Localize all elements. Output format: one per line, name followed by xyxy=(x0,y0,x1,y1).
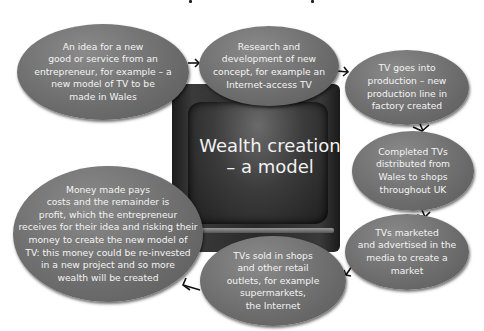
arrow-3-to-4 xyxy=(420,124,423,131)
step-7-profit: Money made pays costs and the remainder … xyxy=(13,166,203,302)
step-2-research: Research and development of new concept,… xyxy=(199,26,339,106)
step-4-text: Completed TVs distributed from Wales to … xyxy=(376,146,450,196)
step-4-distribution: Completed TVs distributed from Wales to … xyxy=(352,131,474,211)
step-6-sales: TVs sold in shops and other retail outle… xyxy=(200,236,346,326)
step-3-production: TV goes into production – new production… xyxy=(345,50,469,125)
step-3-text: TV goes into production – new production… xyxy=(367,62,447,112)
step-5-marketing: TVs marketed and advertised in the media… xyxy=(345,214,469,290)
step-2-text: Research and development of new concept,… xyxy=(213,41,325,91)
arrow-6-to-7 xyxy=(183,285,200,290)
arrow-2-to-3 xyxy=(337,71,348,72)
step-7-text: Money made pays costs and the remainder … xyxy=(19,184,198,285)
step-5-text: TVs marketed and advertised in the media… xyxy=(358,227,456,277)
step-1-text: An idea for a new good or service from a… xyxy=(34,41,171,104)
cropped-text-fragment xyxy=(189,0,192,3)
cropped-text-fragment xyxy=(311,0,314,3)
tv-ledge xyxy=(184,228,334,233)
step-1-idea: An idea for a new good or service from a… xyxy=(17,24,189,120)
step-6-text: TVs sold in shops and other retail outle… xyxy=(227,250,320,313)
diagram-title: Wealth creation – a model xyxy=(190,135,350,177)
